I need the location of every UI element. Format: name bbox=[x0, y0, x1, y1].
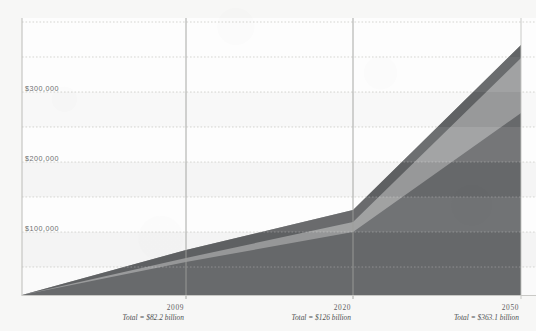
x-tick-group-2050: 2050 Total = $363.1 billion bbox=[401, 303, 519, 322]
x-tick-group-2009: 2009 Total = $82.2 billion bbox=[66, 303, 184, 322]
x-tick-total-2050: Total = $363.1 billion bbox=[401, 313, 519, 322]
x-tick-year-2009: 2009 bbox=[66, 303, 184, 312]
x-tick-year-2050: 2050 bbox=[401, 303, 519, 312]
x-tick-total-2020: Total = $126 billion bbox=[233, 313, 351, 322]
y-tick-label-100000: $100,000 bbox=[25, 224, 59, 233]
y-tick-label-200000: $200,000 bbox=[25, 154, 59, 163]
x-tick-year-2020: 2020 bbox=[233, 303, 351, 312]
chart-canvas bbox=[0, 0, 536, 331]
stacked-area-chart: $300,000 $200,000 $100,000 2009 Total = … bbox=[0, 0, 536, 331]
x-tick-group-2020: 2020 Total = $126 billion bbox=[233, 303, 351, 322]
x-tick-total-2009: Total = $82.2 billion bbox=[66, 313, 184, 322]
band-shading-overlay bbox=[22, 18, 536, 295]
y-tick-label-300000: $300,000 bbox=[25, 84, 59, 93]
